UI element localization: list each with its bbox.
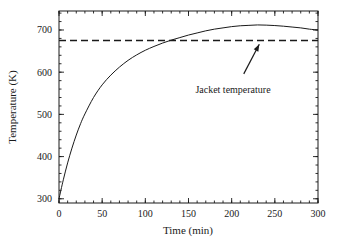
x-tick-label: 150: [181, 208, 196, 219]
chart-figure: 050100150200250300 300400500600700 Jacke…: [0, 0, 345, 242]
y-axis-title: Temperature (K): [6, 70, 19, 144]
x-tick-label: 0: [57, 208, 62, 219]
y-tick-label: 700: [37, 24, 52, 35]
y-tick-label: 500: [37, 109, 52, 120]
x-tick-label: 100: [138, 208, 153, 219]
y-tick-label: 300: [37, 193, 52, 204]
plot-frame: [59, 11, 318, 203]
x-axis-title: Time (min): [163, 224, 213, 237]
temperature-vs-time-chart: 050100150200250300 300400500600700 Jacke…: [0, 0, 345, 242]
y-tick-label: 600: [37, 67, 52, 78]
x-tick-labels: 050100150200250300: [57, 208, 326, 219]
x-tick-label: 50: [97, 208, 107, 219]
x-tick-label: 250: [267, 208, 282, 219]
y-tick-labels: 300400500600700: [37, 24, 52, 204]
y-tick-label: 400: [37, 151, 52, 162]
x-tick-label: 200: [224, 208, 239, 219]
x-tick-label: 300: [311, 208, 326, 219]
jacket-temperature-annotation-label: Jacket temperature: [195, 84, 271, 95]
